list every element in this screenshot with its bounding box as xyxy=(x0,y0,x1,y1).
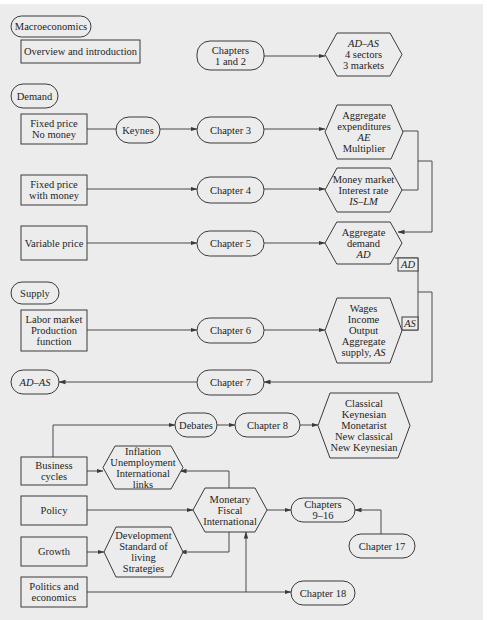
node-label-line: Demand xyxy=(17,91,53,102)
node-label-line: Fixed price xyxy=(30,118,78,129)
node-ch1-2: Chapters1 and 2 xyxy=(197,41,264,70)
node-label-line: Business xyxy=(35,460,72,471)
node-label-line: Money market xyxy=(333,174,395,185)
node-label-line: Macroeconomics xyxy=(15,21,87,32)
arrow-merge-to-ad xyxy=(398,161,432,232)
edge-label-ad: AD xyxy=(398,258,418,271)
node-adas-bottom: AD–AS xyxy=(11,370,59,394)
node-ch18: Chapter 18 xyxy=(291,581,355,605)
node-fixed-money: Fixed pricewith money xyxy=(21,175,87,205)
node-label-line: Fixed price xyxy=(30,179,78,190)
node-label-line: Chapter 7 xyxy=(210,377,251,388)
arrow-ch17-to-ch9-16 xyxy=(355,510,381,534)
node-label-line: Chapters xyxy=(304,499,341,510)
arrow-monetary-to-inflation xyxy=(180,471,229,489)
node-label-line: 9–16 xyxy=(313,510,334,521)
node-label-line: Chapters xyxy=(212,45,249,56)
node-business: Businesscycles xyxy=(21,457,87,485)
node-label-line: Standard of xyxy=(119,541,168,552)
node-label-line: Policy xyxy=(41,505,69,516)
node-label-line: Fiscal xyxy=(217,505,242,516)
label-italic: AS xyxy=(373,347,386,358)
node-label-line: Monetarist xyxy=(341,420,387,431)
node-label-line: Classical xyxy=(345,398,383,409)
node-adas-top: AD–AS4 sectors3 markets xyxy=(325,33,402,76)
node-label-line: expenditures xyxy=(337,121,391,132)
node-label-line: Production xyxy=(31,325,78,336)
nodes: MacroeconomicsOverview and introductionC… xyxy=(11,16,415,607)
node-growth: Growth xyxy=(21,537,87,566)
node-label-line: Chapter 8 xyxy=(247,420,288,431)
node-label-line: Inflation xyxy=(125,446,162,457)
node-label-line: cycles xyxy=(41,471,67,482)
node-label-line: AD–AS xyxy=(347,38,380,49)
node-label-line: Chapter 3 xyxy=(210,125,251,136)
node-moneymarket: Money marketInterest rateIS–LM xyxy=(325,168,402,212)
node-label-line: International xyxy=(203,516,257,527)
node-label-line: AD–AS xyxy=(19,377,52,388)
node-label-line: Overview and introduction xyxy=(24,46,138,57)
node-label-line: Unemployment xyxy=(110,457,175,468)
node-label-line: links xyxy=(133,479,153,490)
node-development: DevelopmentStandard oflivingStrategies xyxy=(104,527,183,577)
node-ch4: Chapter 4 xyxy=(197,177,264,203)
node-label-line: Income xyxy=(348,314,380,325)
node-label-line: Interest rate xyxy=(339,185,389,196)
node-politics: Politics andeconomics xyxy=(21,577,87,607)
node-label-line: International xyxy=(116,468,170,479)
edge-label-text: AS xyxy=(403,318,416,329)
node-ch8: Chapter 8 xyxy=(235,413,300,437)
node-macroeconomics: Macroeconomics xyxy=(11,16,91,37)
node-ch7: Chapter 7 xyxy=(197,370,264,395)
node-label-line: Chapter 4 xyxy=(210,185,252,196)
node-labor: Labor marketProductionfunction xyxy=(21,310,87,351)
node-label-line: New classical xyxy=(335,431,393,442)
node-label-line: Wages xyxy=(350,303,378,314)
line-ae-to-merge xyxy=(402,131,418,190)
node-label-line: Supply xyxy=(20,288,51,299)
node-label-line: Aggregate xyxy=(342,227,386,238)
node-policy: Policy xyxy=(21,496,87,525)
node-overview: Overview and introduction xyxy=(21,40,140,63)
node-label-line: AE xyxy=(357,132,371,143)
node-monetary: MonetaryFiscalInternational xyxy=(193,488,267,532)
node-ch9-16: Chapters9–16 xyxy=(291,498,355,522)
node-variable: Variable price xyxy=(21,226,87,260)
node-ch3: Chapter 3 xyxy=(197,117,264,143)
node-label-line: Variable price xyxy=(25,238,84,249)
label-text: supply, xyxy=(341,347,374,358)
node-label-line: 1 and 2 xyxy=(215,56,246,67)
node-label-line: Keynes xyxy=(122,125,154,136)
node-label-line: Chapter 17 xyxy=(359,541,405,552)
node-supply: Supply xyxy=(11,282,59,304)
node-label-line: Debates xyxy=(179,420,213,431)
node-debates: Debates xyxy=(175,413,217,437)
node-label-line: Aggregate xyxy=(342,110,386,121)
node-label-line: Monetary xyxy=(210,494,252,505)
node-wages: WagesIncomeOutputAggregatesupply, AS xyxy=(325,298,402,363)
node-label-line: Chapter 5 xyxy=(210,238,251,249)
node-ch6: Chapter 6 xyxy=(197,318,264,343)
node-label-line: Keynesian xyxy=(342,409,387,420)
edge-label-as: AS xyxy=(402,317,418,330)
node-label-line: supply, AS xyxy=(341,347,386,358)
node-label-line: Output xyxy=(349,325,378,336)
node-label-line: Chapter 6 xyxy=(210,325,251,336)
node-schools: ClassicalKeynesianMonetaristNew classica… xyxy=(318,393,410,458)
node-label-line: IS–LM xyxy=(348,196,379,207)
node-label-line: economics xyxy=(32,592,77,603)
node-label-line: Development xyxy=(115,530,172,541)
node-label-line: New Keynesian xyxy=(331,442,399,453)
node-inflation: InflationUnemploymentInternationallinks xyxy=(103,446,183,490)
node-label-line: Chapter 18 xyxy=(300,588,346,599)
node-label-line: No money xyxy=(32,129,77,140)
node-label-line: function xyxy=(37,336,73,347)
node-ae: AggregateexpendituresAEMultiplier xyxy=(325,105,403,159)
node-label-line: 3 markets xyxy=(343,60,384,71)
edge-label-text: AD xyxy=(400,259,415,270)
node-label-line: 4 sectors xyxy=(345,49,382,60)
node-fixed-nomoney: Fixed priceNo money xyxy=(21,114,87,144)
node-label-line: Strategies xyxy=(123,563,164,574)
node-label-line: with money xyxy=(29,190,80,201)
arrow-monetary-to-development xyxy=(180,532,229,552)
